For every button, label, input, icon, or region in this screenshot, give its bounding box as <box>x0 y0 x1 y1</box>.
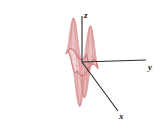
y-axis-label: y <box>148 63 152 72</box>
surface-plot-figure: z y x <box>0 0 161 129</box>
surface-plot-canvas <box>0 0 161 129</box>
x-axis-label: x <box>119 112 124 121</box>
z-axis-label: z <box>84 11 88 20</box>
